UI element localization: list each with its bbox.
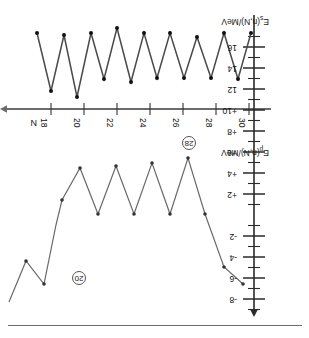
- y-axis-group: [243, 15, 265, 317]
- ep-label-rest: (n,N)/MeV: [221, 148, 260, 158]
- es-label-base: E: [263, 17, 269, 27]
- rotated-figure-canvas: 30 28 26 24 22 20 18 N -8 -6 -4 -2 +2 +4…: [0, 0, 309, 318]
- bottom-rule-divider: [8, 325, 302, 326]
- ep-label-sub: p: [260, 146, 264, 153]
- figure-root: 30 28 26 24 22 20 18 N -8 -6 -4 -2 +2 +4…: [0, 0, 309, 338]
- series-es-group: [9, 156, 245, 302]
- y-axis-label-es: Es(n,N)/MeV: [221, 15, 269, 27]
- x-tick-label-24: 24: [138, 118, 147, 127]
- series-ep-group: [35, 26, 253, 99]
- y-tick-label-12: 12: [228, 85, 237, 94]
- x-tick-label-22: 22: [105, 118, 114, 127]
- x-axis-arrowhead: [0, 105, 7, 113]
- plot-svg: [0, 0, 309, 318]
- x-tick-label-26: 26: [171, 118, 180, 127]
- ep-label-base: E: [263, 148, 269, 158]
- y-tick-label-minus8: -8: [229, 295, 237, 304]
- y-tick-label-plus2: +2: [227, 190, 237, 199]
- es-label-rest: (n,N)/MeV: [221, 17, 260, 27]
- y-tick-label-plus8: +8: [227, 127, 237, 136]
- series-ep-markers: [35, 26, 253, 99]
- x-axis-name-label: N: [31, 118, 38, 128]
- es-label-sub: s: [260, 15, 263, 22]
- magic-number-28: 28: [182, 136, 196, 150]
- y-tick-label-minus2: -2: [229, 232, 237, 241]
- x-tick-label-20: 20: [72, 118, 81, 127]
- series-ep-line: [37, 28, 251, 97]
- y-tick-label-plus10: +10: [223, 106, 237, 115]
- y-tick-label-16: 16: [228, 43, 237, 52]
- y-axis-arrowhead: [250, 310, 257, 317]
- y-tick-label-minus4: -4: [229, 253, 237, 262]
- y-tick-label-plus4: +4: [227, 169, 237, 178]
- series-es-line: [9, 158, 243, 302]
- x-tick-label-30: 30: [237, 118, 246, 127]
- y-tick-label-14: 14: [228, 64, 237, 73]
- magic-number-20: 20: [72, 271, 86, 285]
- x-tick-label-18: 18: [39, 118, 48, 127]
- x-tick-label-28: 28: [204, 118, 213, 127]
- y-tick-label-minus6: -6: [229, 274, 237, 283]
- y-axis-label-ep: Ep(n,N)/MeV: [221, 146, 269, 158]
